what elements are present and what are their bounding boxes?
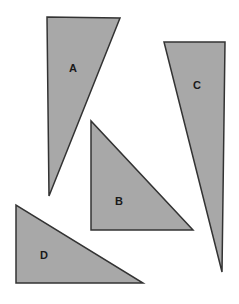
shape-group-c: C (164, 42, 225, 272)
shape-group-b: B (91, 121, 193, 230)
triangle-a-label: A (69, 62, 77, 74)
triangle-c-shape (164, 42, 225, 272)
triangle-d-label: D (40, 249, 48, 261)
figure-canvas: A B C D (0, 0, 239, 304)
triangle-b-shape (91, 121, 193, 230)
triangles-diagram: A B C D (0, 0, 239, 304)
triangle-c-label: C (193, 79, 201, 91)
triangle-b-label: B (115, 195, 123, 207)
